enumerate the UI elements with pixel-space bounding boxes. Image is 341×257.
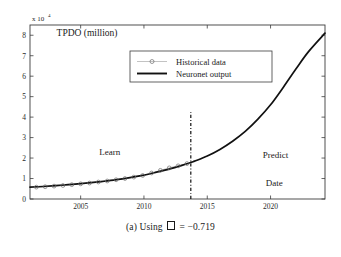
x-tick-label: 2010 bbox=[136, 202, 151, 211]
historical-data-line bbox=[36, 164, 187, 188]
y-tick-label: 0 bbox=[22, 195, 26, 204]
caption-missing-glyph-box bbox=[167, 221, 175, 230]
x-tick-label: 2015 bbox=[200, 202, 215, 211]
y-tick-label: 3 bbox=[22, 133, 26, 142]
y-tick-label: 8 bbox=[22, 31, 26, 40]
chart-canvas: x 10 4 012345678 2005201020152020 TPDO (… bbox=[0, 0, 341, 257]
legend-label-historical-data: Historical data bbox=[176, 57, 226, 67]
x-tick-label: 2005 bbox=[73, 202, 88, 211]
y-axis-multiplier: x 10 4 bbox=[32, 13, 51, 23]
y-tick-label: 1 bbox=[22, 174, 26, 183]
y-tick-label: 2 bbox=[22, 154, 26, 163]
y-tick-label: 7 bbox=[22, 52, 26, 61]
y-tick-label: 5 bbox=[22, 92, 26, 101]
y-axis-multiplier-base: x 10 bbox=[32, 15, 45, 23]
figure-caption: (a) Using = −0.719 bbox=[0, 221, 341, 232]
y-axis-multiplier-exponent: 4 bbox=[48, 13, 51, 18]
chart-legend: Historical data Neuronet output bbox=[130, 51, 272, 82]
y-tick-label: 4 bbox=[22, 113, 26, 122]
figure-container: x 10 4 012345678 2005201020152020 TPDO (… bbox=[0, 0, 341, 257]
y-tick-label: 6 bbox=[22, 72, 26, 81]
date-axis-label: Date bbox=[266, 178, 283, 188]
x-tick-label: 2020 bbox=[263, 202, 278, 211]
y-axis-series-label: TPDO (million) bbox=[57, 28, 118, 39]
predict-region-label: Predict bbox=[263, 150, 289, 160]
legend-label-neuronet-output: Neuronet output bbox=[176, 69, 232, 79]
learn-region-label: Learn bbox=[99, 147, 120, 157]
caption-prefix: (a) Using bbox=[126, 222, 163, 232]
caption-suffix: = −0.719 bbox=[180, 222, 215, 232]
